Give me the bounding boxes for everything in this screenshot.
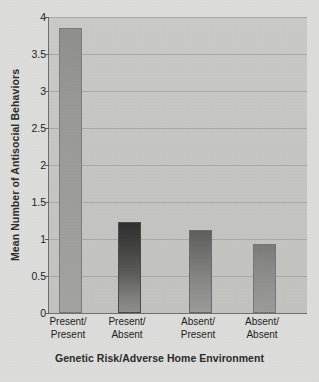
x-axis-title: Genetic Risk/Adverse Home Environment bbox=[0, 352, 319, 364]
x-axis-tick-label-line: Present/ bbox=[36, 316, 100, 329]
y-axis-tick-mark bbox=[45, 54, 49, 55]
x-axis-tick-label-line: Absent/ bbox=[166, 316, 230, 329]
y-axis-tick-label: 1.5 bbox=[22, 197, 46, 208]
y-axis-tick-mark bbox=[45, 17, 49, 18]
y-axis-tick-label: 2 bbox=[22, 160, 46, 171]
y-axis-tick-label: 2.5 bbox=[22, 123, 46, 134]
x-axis-tick-label-line: Absent bbox=[95, 329, 159, 342]
bar bbox=[59, 28, 82, 313]
gridline bbox=[49, 165, 307, 166]
x-axis-tick-label: Absent/Absent bbox=[230, 316, 294, 341]
y-axis-tick-mark bbox=[45, 313, 49, 314]
gridline bbox=[49, 17, 307, 18]
plot-area bbox=[48, 17, 307, 314]
gridline bbox=[49, 202, 307, 203]
x-axis-tick-labels: Present/PresentPresent/AbsentAbsent/Pres… bbox=[48, 316, 306, 350]
y-axis-tick-mark bbox=[45, 276, 49, 277]
x-axis-tick-label-line: Absent/ bbox=[230, 316, 294, 329]
bar bbox=[118, 222, 141, 313]
gridline bbox=[49, 128, 307, 129]
y-axis-tick-label: 3.5 bbox=[22, 49, 46, 60]
x-axis-tick-label: Present/Absent bbox=[95, 316, 159, 341]
y-axis-title-text: Mean Number of Antisocial Behaviors bbox=[9, 69, 21, 261]
x-axis-tick-label: Present/Present bbox=[36, 316, 100, 341]
x-axis-tick-label: Absent/Present bbox=[166, 316, 230, 341]
y-axis-tick-mark bbox=[45, 165, 49, 166]
y-axis-tick-label: 1 bbox=[22, 234, 46, 245]
y-axis-tick-label: 4 bbox=[22, 12, 46, 23]
bar bbox=[189, 230, 212, 313]
gridline bbox=[49, 54, 307, 55]
y-axis-tick-label: 3 bbox=[22, 86, 46, 97]
x-axis-tick-label-line: Present/ bbox=[95, 316, 159, 329]
x-axis-tick-label-line: Present bbox=[166, 329, 230, 342]
bar bbox=[253, 244, 276, 313]
y-axis-tick-mark bbox=[45, 128, 49, 129]
y-axis-tick-mark bbox=[45, 202, 49, 203]
x-axis-tick-label-line: Present bbox=[36, 329, 100, 342]
y-axis-tick-label: 0.5 bbox=[22, 271, 46, 282]
gridline bbox=[49, 91, 307, 92]
y-axis-tick-mark bbox=[45, 239, 49, 240]
bar-chart-figure: Mean Number of Antisocial Behaviors 00.5… bbox=[0, 0, 319, 382]
x-axis-tick-label-line: Absent bbox=[230, 329, 294, 342]
gridline bbox=[49, 239, 307, 240]
y-axis-tick-mark bbox=[45, 91, 49, 92]
